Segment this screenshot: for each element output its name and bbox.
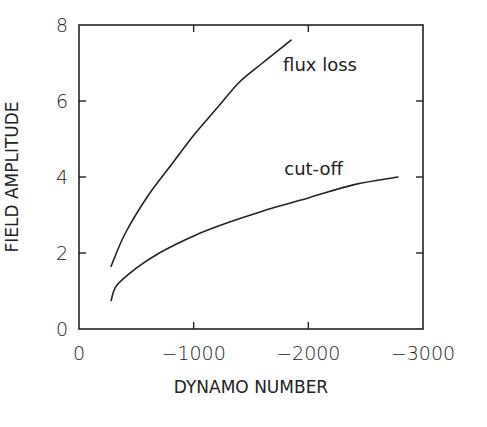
- y-tick-label: 8: [56, 14, 68, 36]
- curve-cut-off: [111, 177, 398, 301]
- y-tick-label: 0: [56, 318, 68, 340]
- annotation-flux-loss: flux loss: [283, 54, 357, 75]
- y-axis-ticks: 02468: [56, 14, 423, 340]
- chart: 02468 0−1000−2000−3000 flux losscut-off …: [0, 0, 487, 427]
- curve-annotations: flux losscut-off: [283, 54, 357, 180]
- plot-frame: [79, 25, 423, 329]
- x-tick-label: 0: [73, 342, 85, 364]
- data-curves: [111, 40, 398, 300]
- x-tick-label: −1000: [162, 342, 226, 364]
- y-tick-label: 2: [56, 242, 68, 264]
- y-tick-label: 4: [56, 166, 68, 188]
- x-axis-ticks: 0−1000−2000−3000: [73, 25, 455, 364]
- annotation-cut-off: cut-off: [284, 158, 343, 179]
- x-tick-label: −2000: [276, 342, 340, 364]
- x-tick-label: −3000: [391, 342, 455, 364]
- y-tick-label: 6: [56, 90, 68, 112]
- x-axis-title: DYNAMO NUMBER: [174, 377, 329, 397]
- y-axis-title: FIELD AMPLITUDE: [2, 101, 22, 252]
